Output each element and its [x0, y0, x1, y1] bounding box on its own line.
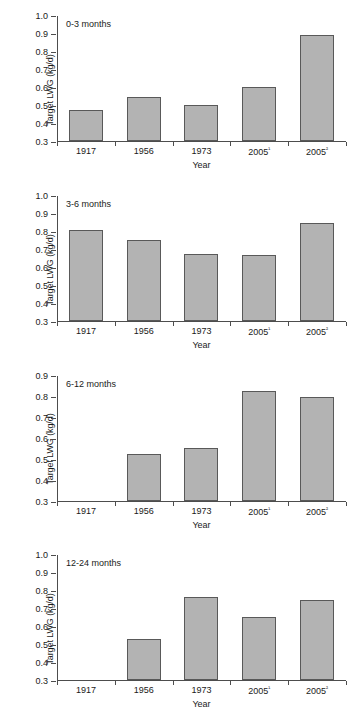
x-axis-tick-label: 2005¹	[230, 506, 288, 517]
bar-series	[57, 376, 346, 501]
x-axis-tick-label: 1917	[57, 506, 115, 517]
y-axis-tick	[51, 418, 56, 419]
y-axis-tick-label: 0.5	[35, 455, 48, 465]
y-axis-tick-label: 0.9	[35, 209, 48, 219]
bar-slot	[288, 16, 346, 141]
y-axis-tick-label: 0.4	[35, 658, 48, 668]
x-axis-line	[57, 141, 346, 142]
bar-slot	[230, 555, 288, 680]
y-axis-tick-label: 0.5	[35, 640, 48, 650]
x-axis-tick-label: 1973	[173, 146, 231, 157]
y-axis-tick	[51, 304, 56, 305]
bar-series	[57, 555, 346, 680]
y-axis-tick-label: 0.6	[35, 622, 48, 632]
y-axis-tick-label: 0.8	[35, 227, 48, 237]
multi-panel-bar-chart-figure: Target LWG (kg/d)0.30.40.50.60.70.80.91.…	[0, 0, 362, 719]
y-axis-tick	[51, 250, 56, 251]
x-axis-tick	[346, 322, 347, 326]
x-axis-tick-label: 2005²	[288, 326, 346, 337]
y-axis-tick	[51, 502, 56, 503]
y-axis-tick-label: 0.5	[35, 281, 48, 291]
bar-slot	[230, 376, 288, 501]
x-axis-tick-label: 1956	[115, 326, 173, 337]
bar-slot	[115, 376, 173, 501]
x-axis-tick-label: 1917	[57, 326, 115, 337]
x-axis-tick-label: 2005²	[288, 506, 346, 517]
y-axis-tick-label: 1.0	[35, 550, 48, 560]
y-axis-tick-label: 0.3	[35, 497, 48, 507]
y-axis-tick-label: 0.4	[35, 476, 48, 486]
y-axis-tick	[51, 555, 56, 556]
y-axis-tick-label: 0.7	[35, 413, 48, 423]
bar-slot	[115, 555, 173, 680]
plot-area: 0.30.40.50.60.70.80.9	[57, 376, 346, 502]
x-axis-line	[57, 680, 346, 681]
plot-area: 0.30.40.50.60.70.80.91.0	[57, 555, 346, 681]
y-axis-tick	[51, 52, 56, 53]
y-axis-tick-label: 0.9	[35, 371, 48, 381]
plot-area: 0.30.40.50.60.70.80.91.0	[57, 196, 346, 322]
x-axis-tick	[346, 502, 347, 506]
y-axis-tick	[51, 322, 56, 323]
y-axis-tick-label: 0.8	[35, 47, 48, 57]
bar	[184, 254, 218, 321]
bar	[300, 600, 334, 680]
y-axis-tick	[51, 481, 56, 482]
bar-slot	[57, 196, 115, 321]
x-axis-title: Year	[57, 160, 346, 170]
y-axis-tick	[51, 573, 56, 574]
y-axis-title: Target LWG (kg/d)	[45, 414, 55, 485]
y-axis-tick	[51, 34, 56, 35]
y-axis-tick	[51, 232, 56, 233]
x-axis-tick-label: 2005²	[288, 685, 346, 696]
y-axis-tick	[51, 106, 56, 107]
y-axis-tick	[51, 627, 56, 628]
y-axis-tick	[51, 214, 56, 215]
y-axis-tick-label: 0.9	[35, 568, 48, 578]
bar	[184, 597, 218, 681]
bar-slot	[288, 376, 346, 501]
bar	[300, 223, 334, 321]
y-axis-tick-label: 0.3	[35, 317, 48, 327]
y-axis-tick	[51, 196, 56, 197]
bar	[127, 97, 161, 141]
y-axis-tick-label: 0.4	[35, 119, 48, 129]
bar-slot	[173, 376, 231, 501]
y-axis-tick	[51, 663, 56, 664]
bar-slot	[115, 16, 173, 141]
x-axis-line	[57, 501, 346, 502]
bar	[242, 391, 276, 501]
bar	[300, 35, 334, 141]
x-axis-tick-label: 1973	[173, 685, 231, 696]
bar-slot	[230, 196, 288, 321]
bar-slot	[288, 196, 346, 321]
x-axis-labels: 1917195619732005¹2005²	[57, 685, 346, 696]
x-axis-title: Year	[57, 699, 346, 709]
y-axis-tick-label: 0.8	[35, 392, 48, 402]
bar-slot	[173, 196, 231, 321]
y-axis-tick	[51, 268, 56, 269]
bar	[69, 110, 103, 141]
y-axis-tick-label: 1.0	[35, 11, 48, 21]
y-axis-tick-label: 0.7	[35, 65, 48, 75]
y-axis-tick	[51, 70, 56, 71]
y-axis-tick-label: 0.7	[35, 604, 48, 614]
panel-title: 12-24 months	[66, 558, 121, 568]
panel-title: 3-6 months	[66, 199, 111, 209]
bar	[69, 230, 103, 321]
panel-title: 0-3 months	[66, 19, 111, 29]
y-axis-tick	[51, 124, 56, 125]
x-axis-labels: 1917195619732005¹2005²	[57, 326, 346, 337]
y-axis-tick-label: 0.7	[35, 245, 48, 255]
y-axis-tick-label: 0.3	[35, 137, 48, 147]
chart-panel-3: Target LWG (kg/d)0.30.40.50.60.70.80.96-…	[0, 360, 362, 540]
bar	[127, 639, 161, 680]
bar-slot	[57, 555, 115, 680]
bar	[242, 87, 276, 141]
x-axis-tick-label: 1973	[173, 506, 231, 517]
bar-slot	[173, 16, 231, 141]
plot-area: 0.30.40.50.60.70.80.91.0	[57, 16, 346, 142]
bar	[127, 454, 161, 500]
x-axis-tick-label: 1956	[115, 146, 173, 157]
y-axis-tick	[51, 439, 56, 440]
